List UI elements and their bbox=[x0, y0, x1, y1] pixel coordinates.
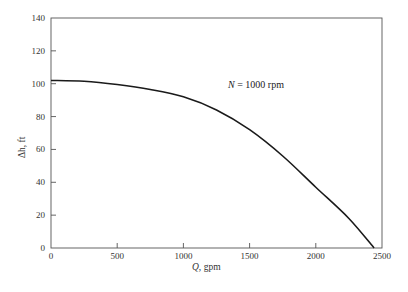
y-axis-label: Δh, ft bbox=[17, 136, 27, 158]
head-curve-line bbox=[51, 80, 374, 248]
y-axis-ticks: 020406080100120140 bbox=[32, 13, 57, 253]
y-tick-label: 60 bbox=[36, 144, 46, 154]
y-tick-label: 40 bbox=[36, 177, 46, 187]
pump-head-chart: 020406080100120140 05001000150020002500 … bbox=[0, 0, 408, 292]
x-tick-label: 2000 bbox=[307, 251, 326, 261]
speed-annotation: N = 1000 rpm bbox=[227, 79, 284, 90]
x-axis-label: Q, gpm bbox=[192, 262, 221, 272]
y-tick-label: 140 bbox=[32, 13, 46, 23]
x-tick-label: 1000 bbox=[174, 251, 193, 261]
y-tick-label: 20 bbox=[36, 210, 46, 220]
x-tick-label: 500 bbox=[110, 251, 124, 261]
y-tick-label: 120 bbox=[32, 46, 46, 56]
plot-frame bbox=[51, 18, 382, 248]
x-axis-ticks: 05001000150020002500 bbox=[49, 243, 392, 261]
x-tick-label: 1500 bbox=[241, 251, 260, 261]
x-tick-label: 0 bbox=[49, 251, 54, 261]
y-tick-label: 0 bbox=[41, 243, 46, 253]
x-tick-label: 2500 bbox=[373, 251, 392, 261]
y-tick-label: 100 bbox=[32, 79, 46, 89]
y-tick-label: 80 bbox=[36, 112, 46, 122]
